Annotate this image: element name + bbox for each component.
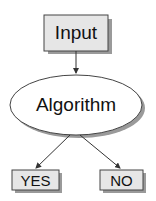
algorithm-label: Algorithm [10, 75, 142, 135]
yes-label: YES [12, 170, 59, 190]
no-label: NO [100, 170, 143, 190]
arrow-algorithm-no [80, 135, 120, 168]
input-label: Input [44, 15, 108, 51]
arrow-algorithm-yes [36, 135, 70, 168]
